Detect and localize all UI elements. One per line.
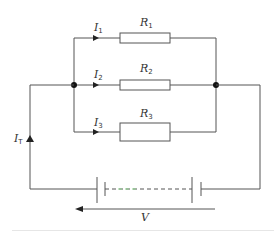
current-arrow-i1-icon bbox=[93, 35, 99, 41]
resistor-r2-label: R2 bbox=[139, 62, 153, 76]
current-i1-label: I1 bbox=[93, 21, 103, 35]
bottom-divider bbox=[12, 230, 274, 231]
resistor-r1-label: R1 bbox=[139, 16, 153, 30]
voltage-arrow-icon bbox=[75, 206, 83, 212]
branch-1: R1 I1 bbox=[74, 16, 216, 43]
current-arrow-i2-icon bbox=[93, 82, 99, 88]
battery bbox=[97, 177, 201, 203]
resistor-r2 bbox=[120, 80, 170, 90]
outer-right-wire bbox=[201, 85, 260, 189]
current-i3-label: I3 bbox=[93, 116, 103, 130]
branch-2: R2 I2 bbox=[74, 62, 216, 90]
total-current-label: IT bbox=[13, 132, 23, 146]
resistor-r1 bbox=[120, 33, 170, 43]
resistor-r3-label: R3 bbox=[139, 107, 153, 121]
resistor-r3 bbox=[120, 123, 170, 141]
branch-3: R3 I3 bbox=[74, 107, 216, 141]
voltage-label: V bbox=[141, 211, 150, 224]
current-i2-label: I2 bbox=[93, 68, 103, 82]
total-current-arrow-icon bbox=[26, 135, 34, 142]
outer-left-wire bbox=[30, 85, 97, 189]
parallel-circuit-diagram: R1 I1 R2 I2 R3 I3 IT V bbox=[0, 0, 274, 232]
